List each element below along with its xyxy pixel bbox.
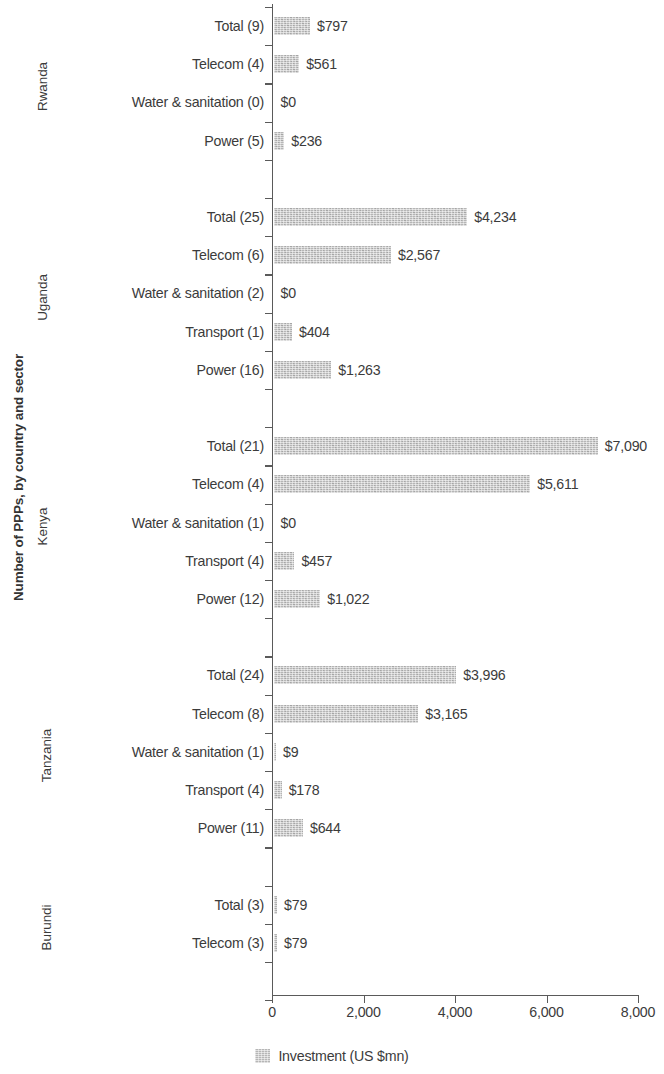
bar [274, 590, 321, 608]
country-group-label: Burundi [39, 867, 54, 987]
bar-value-label: $561 [306, 51, 337, 77]
bar-row: Total (3)$79 [0, 892, 664, 918]
country-group-label: Kenya [35, 466, 50, 586]
bar [274, 896, 278, 914]
bar-row-label: Total (24) [0, 662, 264, 688]
bar [274, 17, 310, 35]
bar-row: Water & sanitation (1)$0 [0, 510, 664, 536]
bar-row: Total (24)$3,996 [0, 662, 664, 688]
bar-row: Water & sanitation (1)$9 [0, 739, 664, 765]
bar-row: Power (5)$236 [0, 128, 664, 154]
bar-row: Water & sanitation (2)$0 [0, 280, 664, 306]
bar-value-label: $3,165 [425, 701, 467, 727]
country-group-label: Rwanda [35, 27, 50, 147]
bar [274, 934, 278, 952]
bar-row: Power (12)$1,022 [0, 586, 664, 612]
bar-value-label: $457 [301, 548, 332, 574]
bar [274, 666, 457, 684]
bar-row: Power (16)$1,263 [0, 357, 664, 383]
bar-row: Telecom (3)$79 [0, 930, 664, 956]
bar-row: Transport (1)$404 [0, 319, 664, 345]
bar [274, 437, 598, 455]
bar [274, 361, 332, 379]
bar-row: Telecom (4)$561 [0, 51, 664, 77]
chart-legend: Investment (US $mn) [0, 1048, 664, 1064]
x-axis-tick-label: 4,000 [415, 1004, 495, 1020]
bar [274, 132, 285, 150]
bar-value-label: $79 [284, 930, 307, 956]
bar-row: Total (9)$797 [0, 13, 664, 39]
bar-value-label: $236 [291, 128, 322, 154]
bar [274, 705, 419, 723]
x-axis-tick [455, 995, 456, 1003]
bar-row: Transport (4)$178 [0, 777, 664, 803]
bar-chart: Number of PPPs, by country and sector To… [0, 0, 664, 1074]
x-axis-tick [638, 995, 639, 1003]
x-axis-tick [547, 995, 548, 1003]
bar-row-label: Total (21) [0, 433, 264, 459]
bar-row-label: Power (12) [0, 586, 264, 612]
x-axis-tick-label: 8,000 [598, 1004, 664, 1020]
bar-value-label: $7,090 [605, 433, 647, 459]
bar-value-label: $2,567 [398, 242, 440, 268]
bar-value-label: $79 [284, 892, 307, 918]
bar-value-label: $644 [310, 815, 341, 841]
country-group-label: Tanzania [39, 695, 54, 815]
bar [274, 323, 292, 341]
bar-row: Telecom (6)$2,567 [0, 242, 664, 268]
bar [274, 475, 531, 493]
bar-row: Total (21)$7,090 [0, 433, 664, 459]
bar-value-label: $0 [281, 89, 296, 115]
bar-value-label: $0 [281, 510, 296, 536]
bar-value-label: $178 [289, 777, 320, 803]
bar [274, 781, 282, 799]
bar-value-label: $0 [281, 280, 296, 306]
legend-swatch-icon [255, 1049, 270, 1063]
x-axis-tick [272, 995, 273, 1003]
bar-row-label: Power (11) [0, 815, 264, 841]
bar-value-label: $1,022 [327, 586, 369, 612]
x-axis-tick-label: 2,000 [324, 1004, 404, 1020]
bar-row-label: Total (25) [0, 204, 264, 230]
bar [274, 552, 295, 570]
x-axis-tick-label: 0 [232, 1004, 312, 1020]
bar-row: Telecom (4)$5,611 [0, 471, 664, 497]
country-group-label: Uganda [35, 237, 50, 357]
bar-row: Telecom (8)$3,165 [0, 701, 664, 727]
bar-value-label: $797 [317, 13, 348, 39]
y-axis-line [272, 4, 273, 995]
bar-row: Power (11)$644 [0, 815, 664, 841]
bar-value-label: $3,996 [463, 662, 505, 688]
bar-row: Water & sanitation (0)$0 [0, 89, 664, 115]
bar [274, 55, 300, 73]
bar [274, 743, 277, 761]
bar-value-label: $5,611 [537, 471, 578, 497]
bar-row: Total (25)$4,234 [0, 204, 664, 230]
x-axis-tick [364, 995, 365, 1003]
bar-value-label: $9 [283, 739, 298, 765]
bar [274, 246, 391, 264]
bar-row: Transport (4)$457 [0, 548, 664, 574]
bar-row-label: Power (16) [0, 357, 264, 383]
bar-value-label: $1,263 [338, 357, 380, 383]
legend-label: Investment (US $mn) [278, 1048, 408, 1064]
bar-value-label: $404 [299, 319, 330, 345]
bar [274, 208, 468, 226]
bar-value-label: $4,234 [474, 204, 516, 230]
bar [274, 819, 303, 837]
x-axis-tick-label: 6,000 [507, 1004, 587, 1020]
